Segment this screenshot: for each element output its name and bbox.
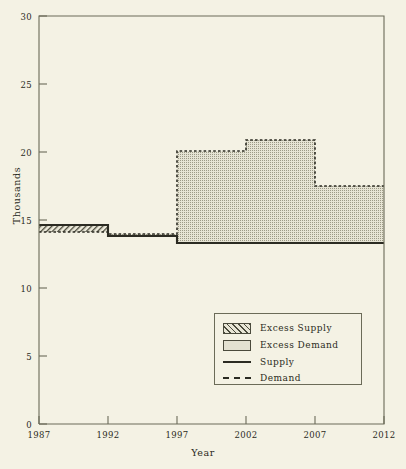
legend-label-excess-supply: Excess Supply (260, 323, 332, 333)
hatch-swatch-icon (223, 323, 251, 334)
dashed-line-swatch-icon (223, 377, 251, 379)
chart-figure: Thousands Year 30 25 20 15 10 5 0 1987 1… (0, 0, 406, 469)
plot-canvas (0, 0, 406, 469)
legend-item-supply: Supply (223, 355, 294, 369)
x-axis-ticks (39, 416, 384, 424)
legend-label-demand: Demand (260, 373, 301, 383)
legend-item-excess-demand: Excess Demand (223, 338, 339, 352)
chart-legend: Excess Supply Excess Demand Supply Deman… (214, 313, 362, 385)
legend-label-excess-demand: Excess Demand (260, 340, 339, 350)
legend-item-excess-supply: Excess Supply (223, 321, 332, 335)
solid-line-swatch-icon (223, 361, 251, 363)
dots-swatch-icon (223, 340, 251, 351)
legend-item-demand: Demand (223, 371, 301, 385)
legend-label-supply: Supply (260, 357, 294, 367)
y-axis-ticks (39, 16, 47, 424)
excess-demand-band (108, 140, 384, 243)
